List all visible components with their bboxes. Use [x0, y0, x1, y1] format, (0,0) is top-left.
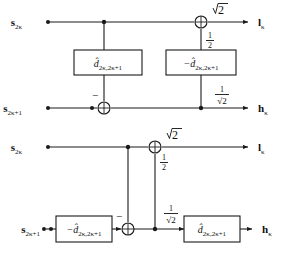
- d2-gain-sqrt2-value: 2: [172, 128, 178, 142]
- d1-minus-sign: −: [92, 89, 98, 101]
- d1-output-hk: hκ: [258, 102, 268, 117]
- d1-gain-isq-num: 1: [220, 85, 224, 94]
- d2-dot-in-top: [46, 145, 50, 149]
- d1-input-s2k1: s2κ+1: [3, 102, 22, 117]
- d2-input-s2k: s2κ: [11, 141, 23, 156]
- d2-minus-sign: −: [116, 210, 122, 222]
- d2-output-lk: lκ: [258, 141, 265, 156]
- d1-dot-top-tap: [102, 20, 106, 24]
- d2-dot-in-bottom: [42, 227, 46, 231]
- d1-gain-sqrt2: 2: [213, 3, 228, 17]
- d1-dot-bottom-pre: [90, 106, 94, 110]
- d2-gain-half-den: 2: [162, 163, 166, 172]
- d2-dot-bottom-tap: [153, 227, 157, 231]
- d2-gain-sqrt2: 2: [167, 128, 182, 142]
- d2-dot-top-tap: [126, 145, 130, 149]
- d1-output-lk: lκ: [258, 16, 265, 31]
- d2-gain-isq-num: 1: [169, 204, 173, 213]
- d2-output-hk: hκ: [262, 223, 272, 238]
- d1-gain-sqrt2-value: 2: [218, 3, 224, 17]
- d2-dot-in-bottom-2: [49, 227, 53, 231]
- d1-gain-isq-den: √2: [217, 96, 226, 106]
- d2-input-s2k1: s2κ+1: [21, 223, 40, 238]
- figure-canvas: s2κ s2κ+1 lκ hκ d̂2κ,2κ+1 −d̂2κ,2κ+1 2 1…: [0, 0, 290, 258]
- d1-gain-half-den: 2: [208, 41, 212, 50]
- d1-input-s2k: s2κ: [11, 16, 23, 31]
- d1-dot-bottom-tap: [199, 106, 203, 110]
- d2-gain-one-half: 1 2: [160, 153, 168, 172]
- d1-gain-one-half: 1 2: [206, 31, 214, 50]
- d2-gain-isq-den: √2: [166, 215, 175, 225]
- d1-gain-half-num: 1: [208, 31, 212, 40]
- d1-dot-in-top: [46, 20, 50, 24]
- d1-gain-one-over-sqrt2: 1 √2: [215, 85, 229, 106]
- d2-gain-half-num: 1: [162, 153, 166, 162]
- d1-dot-in-bottom: [46, 106, 50, 110]
- signal-flow-figure: s2κ s2κ+1 lκ hκ d̂2κ,2κ+1 −d̂2κ,2κ+1 2 1…: [0, 0, 290, 258]
- d2-gain-one-over-sqrt2: 1 √2: [164, 204, 178, 225]
